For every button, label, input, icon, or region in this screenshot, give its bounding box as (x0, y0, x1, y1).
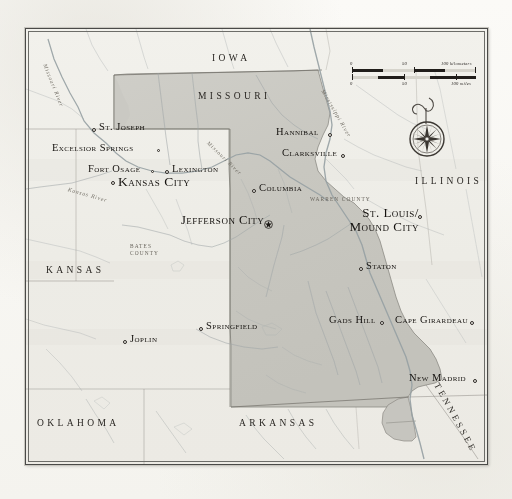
capital-star-icon (264, 220, 273, 229)
compass-rose-icon (395, 94, 459, 168)
scale-seg-km-2 (445, 69, 476, 72)
scale-mi-label-50: 50 (402, 81, 407, 86)
scale-mi-label-0: 0 (350, 81, 353, 86)
city-dot-gads-hill[interactable] (380, 321, 384, 325)
city-dot-hannibal[interactable] (328, 133, 332, 137)
scale-tick-mi-end (456, 74, 457, 80)
scale-seg-km-1 (383, 69, 414, 72)
scale-mi-label-100: 100 miles (451, 81, 471, 86)
compass-hub (425, 137, 429, 141)
scale-tick-km-end (475, 67, 476, 73)
scale-seg-mi-2 (404, 76, 430, 79)
scale-km-label-100: 100 kilometers (441, 61, 472, 66)
city-dot-kansas-city[interactable] (111, 181, 115, 185)
city-dot-springfield[interactable] (199, 327, 203, 331)
scale-km-label-50: 50 (402, 61, 407, 66)
scale-tick-km-0 (352, 67, 353, 73)
scale-tick-mi-mid (404, 74, 405, 80)
city-dot-cape-girardeau[interactable] (470, 321, 474, 325)
scale-bar-mi-line (352, 76, 476, 79)
north-flourish (413, 98, 434, 124)
scale-seg-mi-1 (352, 76, 378, 79)
city-dot-columbia[interactable] (252, 189, 256, 193)
city-dot-st-joseph[interactable] (92, 128, 96, 132)
scale-bar: 0 50 100 kilometers 0 (347, 61, 483, 93)
city-dot-joplin[interactable] (123, 340, 127, 344)
city-dot-st-louis[interactable] (418, 215, 422, 219)
capital-marker-jefferson-city[interactable] (264, 215, 273, 224)
city-dot-clarksville[interactable] (341, 154, 345, 158)
map-plate: IOWA MISSOURI ILLINOIS KANSAS OKLAHOMA A… (25, 28, 488, 465)
map-page: IOWA MISSOURI ILLINOIS KANSAS OKLAHOMA A… (0, 0, 512, 499)
scale-tick-km-mid (414, 67, 415, 73)
city-dot-lexington[interactable] (165, 170, 169, 174)
scale-tick-mi-0 (352, 74, 353, 80)
city-dot-new-madrid[interactable] (473, 379, 477, 383)
compass-rose (395, 94, 459, 168)
city-dot-staton[interactable] (359, 267, 363, 271)
scale-km-label-0: 0 (350, 61, 353, 66)
